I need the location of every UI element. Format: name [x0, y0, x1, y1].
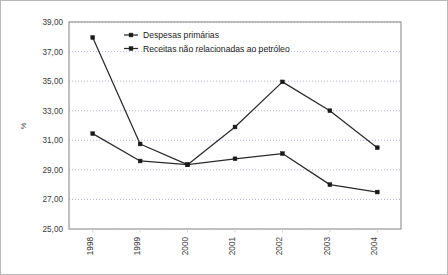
y-axis-title-text: % [19, 122, 28, 129]
x-axis-tick-label: 1998 [86, 237, 95, 256]
legend-label: Receitas não relacionadas ao petróleo [143, 44, 290, 54]
y-axis-tick-label: 25,00 [43, 225, 64, 234]
data-point-marker [91, 132, 95, 136]
y-axis-tick-labels: 25,0027,0029,0031,0033,0035,0037,0039,00 [43, 18, 64, 234]
chart-figure-inner: 25,0027,0029,0031,0033,0035,0037,0039,00… [4, 4, 444, 271]
data-point-marker [375, 146, 379, 150]
x-axis-tick-label: 2001 [228, 237, 237, 256]
y-axis-title: % [19, 122, 28, 129]
data-point-marker [233, 125, 237, 129]
x-axis-tick-label: 2002 [275, 237, 284, 256]
series-line [93, 134, 378, 192]
data-point-marker [375, 190, 379, 194]
chart-figure: 25,0027,0029,0031,0033,0035,0037,0039,00… [0, 0, 448, 275]
x-axis-tick-label: 2004 [370, 237, 379, 256]
chart-legend: Despesas primáriasReceitas não relaciona… [124, 30, 290, 54]
legend-item-1: Despesas primárias [124, 30, 219, 40]
y-axis-tick-label: 29,00 [43, 166, 64, 175]
data-point-marker [328, 183, 332, 187]
legend-marker-swatch [129, 47, 133, 51]
x-axis-tick-label: 2000 [181, 237, 190, 256]
y-axis-tick-label: 35,00 [43, 77, 64, 86]
legend-marker-swatch [129, 33, 133, 37]
y-axis-tick-label: 27,00 [43, 195, 64, 204]
data-point-marker [138, 142, 142, 146]
y-axis-tick-label: 37,00 [43, 48, 64, 57]
data-point-marker [138, 159, 142, 163]
data-point-marker [186, 163, 190, 167]
line-chart: 25,0027,0029,0031,0033,0035,0037,0039,00… [4, 4, 446, 273]
data-point-marker [233, 157, 237, 161]
x-axis-tick-labels: 1998199920002001200220032004 [86, 237, 380, 256]
data-series-layer [91, 36, 379, 194]
legend-item-2: Receitas não relacionadas ao petróleo [124, 44, 290, 54]
y-axis-tick-label: 33,00 [43, 107, 64, 116]
data-point-marker [281, 152, 285, 156]
y-axis-tick-label: 31,00 [43, 136, 64, 145]
data-point-marker [328, 109, 332, 113]
series-1 [91, 36, 379, 167]
x-axis-tick-label: 2003 [323, 237, 332, 256]
data-point-marker [91, 36, 95, 40]
y-axis-tick-label: 39,00 [43, 18, 64, 27]
data-point-marker [281, 80, 285, 84]
series-line [93, 38, 378, 165]
legend-label: Despesas primárias [143, 30, 219, 40]
x-axis-tick-label: 1999 [133, 237, 142, 256]
series-2 [91, 132, 379, 194]
